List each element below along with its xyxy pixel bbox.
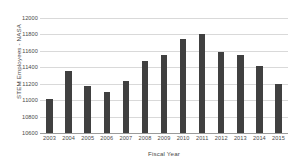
x-axis-tick-label: 2004	[59, 135, 78, 147]
x-axis-tick-label: 2003	[40, 135, 59, 147]
x-axis-tick-label: 2014	[250, 135, 269, 147]
y-axis-tick-label: 10800	[14, 114, 38, 120]
bar	[218, 52, 225, 133]
x-axis-tick-label: 2006	[97, 135, 116, 147]
bar-slot	[269, 18, 288, 133]
bar-slot	[193, 18, 212, 133]
x-axis-tick-label: 2010	[174, 135, 193, 147]
bar-chart: STEM Employees - NASA 106001080011000112…	[0, 0, 294, 165]
y-axis-tick-label: 11200	[14, 81, 38, 87]
x-axis-tick-label: 2012	[212, 135, 231, 147]
x-axis-tick-label: 2007	[116, 135, 135, 147]
bar	[123, 81, 130, 133]
bar	[256, 66, 263, 133]
bar	[199, 34, 206, 133]
x-axis-line	[40, 133, 288, 134]
x-axis-tick-label: 2008	[135, 135, 154, 147]
plot-area	[40, 18, 288, 133]
bar	[237, 55, 244, 133]
x-axis-tick-labels: 2003200420052006200720082009201020112012…	[40, 135, 288, 147]
y-axis-tick-label: 10600	[14, 130, 38, 136]
bar	[142, 61, 149, 133]
bar-slot	[116, 18, 135, 133]
bar-slot	[250, 18, 269, 133]
y-axis-tick-label: 11400	[14, 64, 38, 70]
bar-slot	[174, 18, 193, 133]
bar	[65, 71, 72, 133]
x-axis-tick-label: 2011	[193, 135, 212, 147]
bar-slot	[135, 18, 154, 133]
y-axis-tick-labels: 1060010800110001120011400116001180012000	[14, 0, 38, 165]
x-axis-tick-label: 2005	[78, 135, 97, 147]
bar-slot	[97, 18, 116, 133]
y-axis-tick-label: 11000	[14, 97, 38, 103]
y-axis-tick-label: 12000	[14, 15, 38, 21]
x-axis-tick-label: 2013	[231, 135, 250, 147]
bar	[180, 39, 187, 133]
bar-slot	[40, 18, 59, 133]
x-axis-title: Fiscal Year	[40, 150, 288, 157]
bar	[275, 84, 282, 133]
y-axis-tick-label: 11800	[14, 31, 38, 37]
bars-layer	[40, 18, 288, 133]
bar	[84, 86, 91, 133]
bar	[46, 99, 53, 133]
x-axis-tick-label: 2009	[154, 135, 173, 147]
bar-slot	[154, 18, 173, 133]
bar-slot	[231, 18, 250, 133]
bar-slot	[212, 18, 231, 133]
y-axis-tick-label: 11600	[14, 48, 38, 54]
bar-slot	[59, 18, 78, 133]
bar-slot	[78, 18, 97, 133]
bar	[161, 55, 168, 133]
bar	[104, 92, 111, 133]
x-axis-tick-label: 2015	[269, 135, 288, 147]
